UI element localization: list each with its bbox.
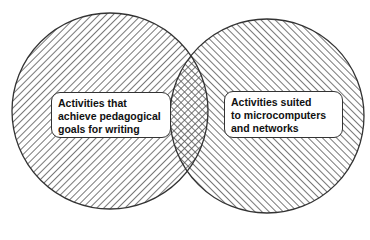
right-set-label: Activities suited to microcomputers and … [224, 91, 343, 138]
right-label-line-3: and networks [231, 122, 336, 135]
left-set-label: Activities that achieve pedagogical goal… [51, 92, 171, 138]
left-label-line-3: goals for writing [58, 123, 164, 136]
right-label-line-2: to microcomputers [231, 109, 336, 122]
left-label-line-1: Activities that [58, 97, 164, 110]
left-label-line-2: achieve pedagogical [58, 110, 164, 123]
right-label-line-1: Activities suited [231, 96, 336, 109]
